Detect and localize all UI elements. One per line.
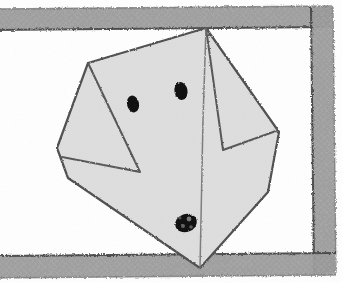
scan-grain-overlay [0,0,342,283]
sketch-page: t [0,0,342,283]
sketch-artboard [0,0,342,283]
